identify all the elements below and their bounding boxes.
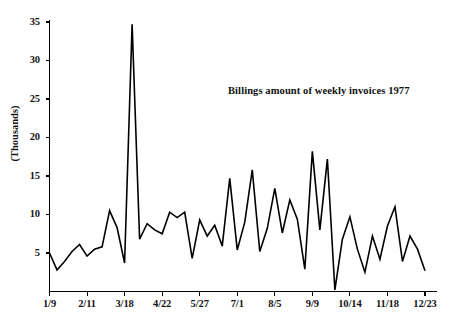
line-chart: 5101520253035 1/92/113/184/225/277/18/59… — [0, 0, 461, 327]
y-tick-label: 30 — [14, 55, 40, 66]
y-tick-label: 15 — [14, 171, 40, 182]
y-axis-title: (Thousands) — [9, 98, 20, 170]
y-tick-label: 10 — [14, 209, 40, 220]
chart-title: Billings amount of weekly invoices 1977 — [228, 85, 410, 96]
data-series-line — [50, 24, 426, 290]
y-axis-ticks — [46, 22, 50, 253]
x-axis-ticks — [50, 292, 426, 297]
x-tick-label: 12/23 — [401, 299, 449, 310]
y-tick-label: 5 — [14, 248, 40, 259]
chart-plot-area — [0, 0, 461, 327]
y-tick-label: 35 — [14, 17, 40, 28]
